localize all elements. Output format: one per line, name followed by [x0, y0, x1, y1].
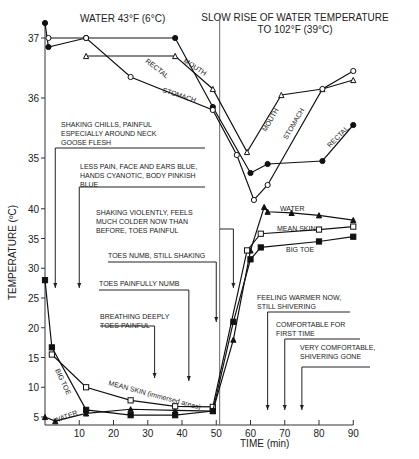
- svg-text:BREATHING DEEPLY: BREATHING DEEPLY: [100, 313, 170, 320]
- series-rectal: [42, 20, 355, 175]
- annotation: TOES NUMB, STILL SHAKING: [108, 252, 218, 322]
- annotation: SHAKING VIOLENTLY, FEELSMUCH COLDER NOW …: [96, 209, 235, 288]
- series-label: BIG TOE: [286, 246, 314, 253]
- series-label: RECTAL: [326, 125, 350, 149]
- x-axis-label: TIME (min): [240, 438, 289, 449]
- x-tick-label: 20: [108, 428, 120, 439]
- y-tick-label: 5: [33, 412, 39, 423]
- svg-text:STILL SHIVERING: STILL SHIVERING: [257, 303, 316, 310]
- y-tick-label: 20: [28, 323, 40, 334]
- svg-text:GOOSE FLESH: GOOSE FLESH: [61, 139, 111, 146]
- annotation: SHAKING CHILLS, PAINFULESPECIALLY AROUND…: [53, 121, 205, 288]
- svg-text:HANDS CYANOTIC, BODY PINKISH: HANDS CYANOTIC, BODY PINKISH: [80, 172, 196, 179]
- annotation: BREATHING DEEPLYTOES PAINFUL: [100, 313, 170, 378]
- y-tick-label: 35: [28, 153, 40, 164]
- y-tick-label: 10: [28, 382, 40, 393]
- svg-text:VERY COMFORTABLE,: VERY COMFORTABLE,: [300, 344, 375, 351]
- y-tick-label: 25: [28, 293, 40, 304]
- y-tick-label: 15: [28, 353, 40, 364]
- svg-text:ESPECIALLY AROUND NECK: ESPECIALLY AROUND NECK: [61, 130, 157, 137]
- annotation: TOES PAINFULLY NUMB: [99, 280, 191, 381]
- title-right-line1: SLOW RISE OF WATER TEMPERATURE: [201, 12, 389, 23]
- x-tick-label: 50: [211, 428, 223, 439]
- x-tick-label: 10: [74, 428, 86, 439]
- title-right-line2: TO 102°F (39°C): [257, 24, 332, 35]
- hypothermia-chart: WATER 43°F (6°C) SLOW RISE OF WATER TEMP…: [0, 0, 419, 459]
- svg-text:SHAKING CHILLS, PAINFUL: SHAKING CHILLS, PAINFUL: [61, 121, 152, 128]
- svg-text:TOES NUMB, STILL SHAKING: TOES NUMB, STILL SHAKING: [108, 252, 205, 259]
- x-tick-label: 90: [348, 428, 360, 439]
- svg-text:MUCH COLDER NOW THAN: MUCH COLDER NOW THAN: [96, 218, 188, 225]
- y-tick-label: 40: [28, 204, 40, 215]
- annotation: FEELING WARMER NOW,STILL SHIVERING: [257, 294, 350, 410]
- annotation: VERY COMFORTABLE,SHIVERING GONE: [300, 344, 376, 410]
- annotation: COMFORTABLE FORFIRST TIME: [276, 321, 360, 410]
- annotation: LESS PAIN, FACE AND EARS BLUE,HANDS CYAN…: [77, 163, 205, 288]
- svg-text:SHAKING VIOLENTLY, FEELS: SHAKING VIOLENTLY, FEELS: [96, 209, 193, 216]
- svg-text:LESS PAIN, FACE AND EARS BLUE,: LESS PAIN, FACE AND EARS BLUE,: [80, 163, 197, 170]
- series-label: RECTAL: [144, 57, 170, 79]
- y-tick-label: 37: [28, 33, 40, 44]
- svg-text:TOES PAINFULLY NUMB: TOES PAINFULLY NUMB: [99, 280, 180, 287]
- svg-text:COMFORTABLE FOR: COMFORTABLE FOR: [276, 321, 345, 328]
- y-tick-label: 36: [28, 93, 40, 104]
- x-tick-label: 30: [142, 428, 154, 439]
- svg-text:FEELING WARMER NOW,: FEELING WARMER NOW,: [257, 294, 341, 301]
- series-water: [42, 204, 355, 423]
- svg-text:SHIVERING GONE: SHIVERING GONE: [300, 353, 361, 360]
- svg-text:FIRST TIME: FIRST TIME: [276, 330, 315, 337]
- series-label: STOMACH: [282, 107, 305, 141]
- title-left: WATER 43°F (6°C): [80, 13, 165, 24]
- svg-text:BEFORE, TOES PAINFUL: BEFORE, TOES PAINFUL: [96, 227, 179, 234]
- x-tick-label: 80: [313, 428, 325, 439]
- series-label: MOUTH: [261, 107, 280, 133]
- x-tick-label: 40: [176, 428, 188, 439]
- y-axis-label: TEMPERATURE (ºC): [7, 205, 18, 300]
- y-tick-label: 30: [28, 263, 40, 274]
- y-tick-label: 35: [28, 234, 40, 245]
